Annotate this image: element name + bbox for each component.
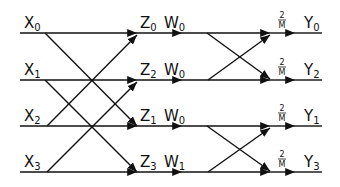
- input-label-2: X2: [24, 107, 41, 126]
- svg-text:2: 2: [279, 11, 284, 20]
- svg-text:M: M: [279, 68, 286, 77]
- output-label-3: Y3: [303, 153, 320, 172]
- output-label-1: Y2: [303, 61, 320, 80]
- w-label-1: W0: [164, 61, 185, 80]
- edge-s2-0-1: [207, 33, 270, 79]
- scale-fraction-3: 2 M: [278, 150, 286, 169]
- input-label-3: X3: [24, 153, 41, 172]
- z-label-1: Z2: [140, 61, 157, 80]
- scale-fraction-1: 2 M: [278, 58, 286, 77]
- output-label-0: Y0: [303, 14, 320, 33]
- svg-text:M: M: [279, 114, 286, 123]
- input-label-0: X0: [24, 14, 41, 33]
- svg-text:M: M: [279, 160, 286, 169]
- z-label-0: Z0: [140, 14, 157, 33]
- w-label-2: W0: [164, 107, 185, 126]
- edge-s2-2-3: [207, 126, 270, 171]
- edge-s2-1-0: [208, 35, 270, 80]
- svg-text:2: 2: [279, 104, 284, 113]
- output-label-2: Y1: [303, 107, 320, 126]
- butterfly-diagram: X0 X1 X2 X3 Z0 Z2 Z1 Z3 W0 W0 W0 W1 Y0 Y…: [0, 0, 340, 187]
- svg-text:2: 2: [279, 150, 284, 159]
- scale-fraction-0: 2 M: [278, 11, 286, 30]
- w-label-3: W1: [164, 153, 185, 172]
- z-label-3: Z3: [140, 153, 157, 172]
- z-label-2: Z1: [140, 107, 157, 126]
- input-label-1: X1: [24, 61, 41, 80]
- edge-s2-3-2: [208, 128, 270, 172]
- w-label-0: W0: [164, 14, 185, 33]
- scale-fraction-2: 2 M: [278, 104, 286, 123]
- svg-text:2: 2: [279, 58, 284, 67]
- svg-text:M: M: [279, 21, 286, 30]
